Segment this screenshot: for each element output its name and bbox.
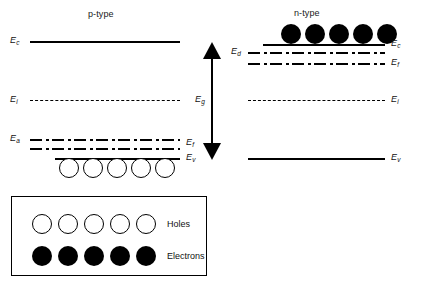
legend-holes-label: Holes xyxy=(167,219,190,229)
p-type-ev-label: Ev xyxy=(186,153,195,162)
legend-electron-symbol xyxy=(58,246,78,266)
band-gap-label-sub: g xyxy=(201,98,205,105)
p-type-ec-label-sub: c xyxy=(16,39,19,46)
hole-carrier xyxy=(83,158,103,178)
legend-hole-symbol xyxy=(58,214,78,234)
legend-box: Holes Electrons xyxy=(11,196,207,276)
n-type-ec-line xyxy=(263,44,385,46)
electron-carrier xyxy=(353,24,373,44)
n-type-ev-label: Ev xyxy=(391,153,400,162)
p-type-ec-line xyxy=(30,41,180,43)
p-type-ev-label-sub: v xyxy=(192,156,195,163)
n-type-ec-label: Ec xyxy=(391,39,400,48)
p-type-ea-label-sub: a xyxy=(16,137,20,144)
electron-carrier xyxy=(281,24,301,44)
hole-carrier xyxy=(59,158,79,178)
n-type-ei-label-sub: i xyxy=(397,98,398,105)
n-type-ed-label: Ed xyxy=(231,47,241,56)
band-gap-arrow-shaft xyxy=(211,58,213,144)
electron-carrier xyxy=(305,24,325,44)
n-type-ed-label-sub: d xyxy=(237,50,241,57)
n-type-ef-line xyxy=(248,63,385,65)
p-type-ei-line xyxy=(30,100,180,101)
legend-electron-symbol xyxy=(32,246,52,266)
n-type-ei-line xyxy=(248,100,385,101)
n-type-ev-line xyxy=(248,158,385,160)
p-type-ea-line xyxy=(30,139,180,141)
band-gap-arrow-head-down xyxy=(203,143,221,160)
legend-hole-symbol xyxy=(110,214,130,234)
n-type-ed-line xyxy=(248,52,385,54)
p-type-ef-label: Ef xyxy=(186,138,194,147)
p-type-ei-label: Ei xyxy=(10,95,17,104)
hole-carrier xyxy=(131,158,151,178)
p-type-ef-line xyxy=(30,148,180,150)
p-type-ei-label-sub: i xyxy=(16,98,17,105)
p-type-ef-label-sub: f xyxy=(192,141,194,148)
n-type-title: n-type xyxy=(294,8,320,18)
legend-electrons-label: Electrons xyxy=(167,251,205,261)
band-gap-label: Eg xyxy=(195,95,205,104)
legend-electron-symbol xyxy=(84,246,104,266)
legend-hole-symbol xyxy=(84,214,104,234)
p-type-ea-label: Ea xyxy=(10,134,20,143)
hole-carrier xyxy=(155,158,175,178)
n-type-ef-label: Ef xyxy=(391,58,399,67)
legend-hole-symbol xyxy=(32,214,52,234)
band-gap-arrow-head-up xyxy=(203,42,221,59)
n-type-ef-label-sub: f xyxy=(397,61,399,68)
electron-carrier xyxy=(329,24,349,44)
hole-carrier xyxy=(107,158,127,178)
n-type-ei-label: Ei xyxy=(391,95,398,104)
n-type-ec-label-sub: c xyxy=(397,42,400,49)
n-type-ev-label-sub: v xyxy=(397,156,400,163)
legend-hole-symbol xyxy=(136,214,156,234)
p-type-ec-label: Ec xyxy=(10,36,19,45)
p-type-title: p-type xyxy=(88,9,114,19)
band-diagram-figure: p-type n-type Ec Ei Ea Ef Ev Eg Ec E xyxy=(0,0,422,291)
legend-electron-symbol xyxy=(110,246,130,266)
legend-electron-symbol xyxy=(136,246,156,266)
